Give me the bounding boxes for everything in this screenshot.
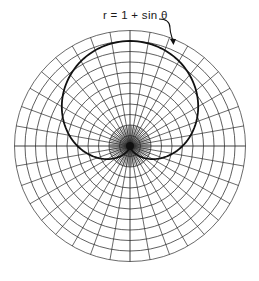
curve-equation-label: r = 1 + sin θ	[103, 9, 168, 21]
polar-graph	[0, 0, 259, 281]
arrowhead-icon	[170, 39, 176, 45]
